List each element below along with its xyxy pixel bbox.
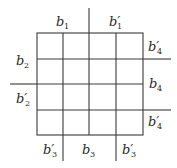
- svg-text:1: 1: [64, 22, 69, 31]
- svg-text:3: 3: [131, 150, 136, 159]
- svg-text:3: 3: [90, 150, 95, 159]
- svg-text:4: 4: [157, 84, 162, 93]
- label-left-lower: b′ 2: [16, 91, 30, 108]
- label-right-middle: b 4: [149, 76, 162, 93]
- svg-text:4: 4: [157, 122, 162, 131]
- svg-text:2: 2: [24, 61, 29, 70]
- label-bottom-middle: b 3: [82, 142, 95, 159]
- label-top-left: b 1: [56, 14, 69, 31]
- grid-diagram: b 1 b′ 1 b 2 b′ 2 b′ 4 b 4 b′ 4 b′ 3 b 3…: [0, 0, 177, 168]
- label-right-top: b′ 4: [148, 39, 162, 56]
- label-bottom-left: b′ 3: [43, 142, 57, 159]
- label-right-bottom: b′ 4: [148, 114, 162, 131]
- svg-text:1: 1: [117, 22, 122, 31]
- label-bottom-right: b′ 3: [122, 142, 136, 159]
- svg-text:3: 3: [52, 150, 57, 159]
- svg-text:2: 2: [25, 99, 30, 108]
- label-left-upper: b 2: [16, 53, 29, 70]
- label-top-right: b′ 1: [109, 14, 122, 31]
- svg-text:4: 4: [157, 47, 162, 56]
